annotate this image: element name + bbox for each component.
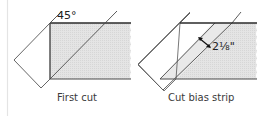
outer-bottom bbox=[138, 64, 163, 90]
folded-corner bbox=[14, 23, 50, 88]
fabric-shade bbox=[50, 23, 131, 79]
strip-cut-extension bbox=[232, 12, 241, 23]
angle-label: 45° bbox=[57, 9, 77, 22]
caption-first-cut: First cut bbox=[57, 92, 97, 103]
caption-cut-bias-strip: Cut bias strip bbox=[168, 92, 234, 103]
first-cut-figure bbox=[14, 11, 131, 88]
dimension-label: 2⅛" bbox=[212, 40, 235, 53]
bias-strip-figure bbox=[138, 12, 257, 91]
